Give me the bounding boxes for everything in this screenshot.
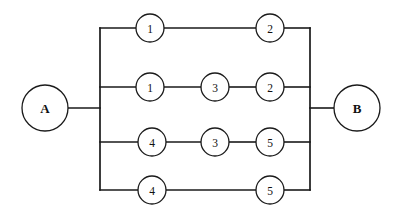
terminal-node-a[interactable]: A — [22, 85, 68, 131]
component-node-5[interactable]: 5 — [256, 128, 284, 156]
component-node-1[interactable]: 1 — [136, 14, 164, 42]
component-node-circle — [256, 73, 284, 101]
network-diagram: 1213243545AB — [0, 0, 397, 220]
component-node-2[interactable]: 2 — [256, 14, 284, 42]
component-node-circle — [136, 73, 164, 101]
component-node-circle — [256, 14, 284, 42]
component-node-circle — [138, 176, 166, 204]
terminal-node-circle — [22, 85, 68, 131]
component-node-circle — [201, 128, 229, 156]
edges-layer — [68, 28, 334, 190]
component-node-4[interactable]: 4 — [138, 128, 166, 156]
component-node-5[interactable]: 5 — [256, 176, 284, 204]
component-node-2[interactable]: 2 — [256, 73, 284, 101]
component-node-4[interactable]: 4 — [138, 176, 166, 204]
terminal-node-circle — [334, 85, 380, 131]
nodes-layer: 1213243545AB — [22, 14, 380, 204]
terminal-node-b[interactable]: B — [334, 85, 380, 131]
component-node-circle — [201, 73, 229, 101]
component-node-circle — [136, 14, 164, 42]
network-diagram-canvas: 1213243545AB — [0, 0, 397, 220]
component-node-circle — [256, 176, 284, 204]
component-node-3[interactable]: 3 — [201, 128, 229, 156]
component-node-1[interactable]: 1 — [136, 73, 164, 101]
component-node-circle — [256, 128, 284, 156]
component-node-3[interactable]: 3 — [201, 73, 229, 101]
component-node-circle — [138, 128, 166, 156]
